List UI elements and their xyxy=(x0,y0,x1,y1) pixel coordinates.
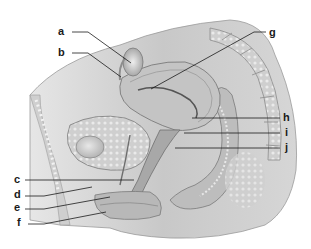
pelvis-diagram xyxy=(0,0,311,249)
label-b: b xyxy=(58,47,65,58)
label-a: a xyxy=(58,26,64,37)
label-i: i xyxy=(285,127,288,138)
external-genitalia xyxy=(95,191,162,219)
label-d: d xyxy=(14,189,21,200)
label-e: e xyxy=(14,202,20,213)
perirectal-fat xyxy=(225,152,265,208)
label-f: f xyxy=(17,217,21,228)
label-g: g xyxy=(269,27,276,38)
label-c: c xyxy=(14,174,20,185)
label-j: j xyxy=(285,142,288,153)
label-h: h xyxy=(283,112,290,123)
